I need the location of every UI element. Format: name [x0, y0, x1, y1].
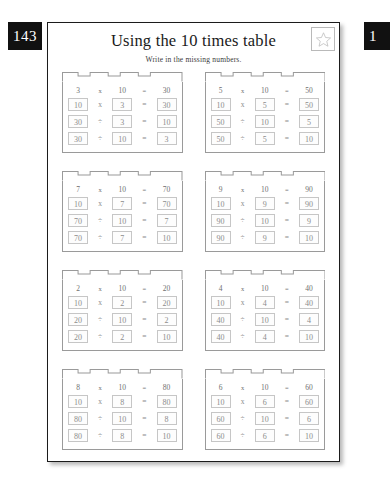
equation-row: 50÷10=5: [211, 113, 320, 130]
answer-box-operand-1[interactable]: 50: [211, 132, 231, 145]
answer-box-operand-1[interactable]: 20: [68, 330, 88, 343]
answer-box-result[interactable]: 20: [157, 296, 177, 309]
page-number-badge-left: 143: [8, 22, 42, 50]
equation-row: 70÷7=10: [68, 229, 177, 246]
equation-example-row: 4x10=40: [211, 282, 320, 294]
answer-box-operand-2[interactable]: 10: [255, 115, 275, 128]
answer-box-operand-1[interactable]: 10: [211, 98, 231, 111]
answer-box-operand-1[interactable]: 80: [68, 412, 88, 425]
equals-symbol: =: [139, 397, 150, 406]
answer-box-operand-1[interactable]: 40: [211, 330, 231, 343]
answer-box-result[interactable]: 40: [299, 296, 319, 309]
answer-box-operand-2[interactable]: 4: [255, 330, 275, 343]
answer-box-result[interactable]: 50: [299, 98, 319, 111]
answer-box-result[interactable]: 5: [299, 115, 319, 128]
equals-symbol: =: [139, 233, 150, 242]
answer-box-operand-2[interactable]: 9: [255, 197, 275, 210]
answer-box-operand-2[interactable]: 6: [255, 395, 275, 408]
equals-symbol: =: [139, 285, 150, 292]
answer-box-result[interactable]: 10: [157, 115, 177, 128]
answer-box-operand-1[interactable]: 60: [211, 412, 231, 425]
answer-box-result[interactable]: 7: [157, 214, 177, 227]
star-sticker-box[interactable]: [311, 27, 335, 51]
answer-box-operand-2[interactable]: 5: [255, 98, 275, 111]
answer-box-result[interactable]: 3: [157, 132, 177, 145]
equals-symbol: =: [139, 431, 150, 440]
exercise-block-body: 7x10=7010x7=7070÷10=770÷7=10: [62, 181, 183, 252]
answer-box-operand-1[interactable]: 60: [211, 429, 231, 442]
answer-box-operand-2[interactable]: 2: [112, 330, 132, 343]
answer-box-operand-2[interactable]: 10: [255, 412, 275, 425]
exercise-block: 5x10=5010x5=5050÷10=550÷5=10: [205, 71, 326, 153]
answer-box-operand-1[interactable]: 20: [68, 313, 88, 326]
answer-box-operand-1[interactable]: 80: [68, 429, 88, 442]
answer-box-operand-1[interactable]: 90: [211, 231, 231, 244]
answer-box-operand-1[interactable]: 10: [211, 197, 231, 210]
answer-box-operand-2[interactable]: 10: [112, 313, 132, 326]
answer-box-operand-2[interactable]: 8: [112, 429, 132, 442]
exercise-block: 6x10=6010x6=6060÷10=660÷6=10: [205, 368, 326, 450]
equals-symbol: =: [139, 117, 150, 126]
operator-symbol: ÷: [95, 216, 106, 225]
answer-box-result[interactable]: 6: [299, 412, 319, 425]
answer-box-result[interactable]: 90: [299, 197, 319, 210]
answer-box-operand-2[interactable]: 7: [112, 231, 132, 244]
answer-box-operand-1[interactable]: 50: [211, 115, 231, 128]
answer-box-operand-1[interactable]: 40: [211, 313, 231, 326]
answer-box-operand-1[interactable]: 10: [211, 296, 231, 309]
answer-box-result[interactable]: 9: [299, 214, 319, 227]
answer-box-operand-2[interactable]: 5: [255, 132, 275, 145]
operator-symbol: x: [95, 100, 106, 109]
answer-box-operand-1[interactable]: 10: [68, 98, 88, 111]
castle-battlement-top: [205, 368, 326, 379]
equals-symbol: =: [281, 298, 292, 307]
answer-box-result[interactable]: 60: [299, 395, 319, 408]
answer-box-result[interactable]: 30: [157, 98, 177, 111]
answer-box-operand-1[interactable]: 10: [68, 395, 88, 408]
answer-box-operand-2[interactable]: 7: [112, 197, 132, 210]
answer-box-operand-2[interactable]: 4: [255, 296, 275, 309]
operator-symbol: x: [237, 285, 248, 292]
answer-box-operand-2[interactable]: 2: [112, 296, 132, 309]
answer-box-result[interactable]: 10: [299, 330, 319, 343]
equals-symbol: =: [281, 332, 292, 341]
answer-box-operand-1[interactable]: 10: [211, 395, 231, 408]
answer-box-result[interactable]: 4: [299, 313, 319, 326]
equals-symbol: =: [139, 100, 150, 109]
answer-box-operand-2[interactable]: 10: [112, 132, 132, 145]
answer-box-result[interactable]: 10: [157, 330, 177, 343]
answer-box-operand-2[interactable]: 10: [255, 313, 275, 326]
operand-2: 10: [112, 284, 132, 293]
answer-box-operand-1[interactable]: 10: [68, 296, 88, 309]
answer-box-operand-2[interactable]: 8: [112, 395, 132, 408]
answer-box-result[interactable]: 10: [299, 231, 319, 244]
answer-box-result[interactable]: 70: [157, 197, 177, 210]
answer-box-operand-2[interactable]: 3: [112, 98, 132, 111]
answer-box-result[interactable]: 8: [157, 412, 177, 425]
answer-box-operand-1[interactable]: 30: [68, 115, 88, 128]
equals-symbol: =: [139, 216, 150, 225]
answer-box-result[interactable]: 2: [157, 313, 177, 326]
answer-box-operand-1[interactable]: 10: [68, 197, 88, 210]
operand-1: 3: [68, 86, 88, 95]
answer-box-result[interactable]: 10: [299, 132, 319, 145]
answer-box-result[interactable]: 80: [157, 395, 177, 408]
answer-box-operand-2[interactable]: 10: [112, 412, 132, 425]
answer-box-operand-1[interactable]: 70: [68, 231, 88, 244]
answer-box-operand-2[interactable]: 10: [112, 214, 132, 227]
answer-box-operand-1[interactable]: 90: [211, 214, 231, 227]
equation-example-row: 9x10=90: [211, 183, 320, 195]
answer-box-operand-2[interactable]: 3: [112, 115, 132, 128]
answer-box-operand-2[interactable]: 10: [255, 214, 275, 227]
answer-box-result[interactable]: 10: [157, 231, 177, 244]
exercise-block: 7x10=7010x7=7070÷10=770÷7=10: [62, 170, 183, 252]
equation-row: 10x3=30: [68, 96, 177, 113]
castle-battlement-top: [205, 170, 326, 181]
answer-box-operand-2[interactable]: 6: [255, 429, 275, 442]
answer-box-result[interactable]: 10: [299, 429, 319, 442]
answer-box-operand-1[interactable]: 70: [68, 214, 88, 227]
answer-box-result[interactable]: 10: [157, 429, 177, 442]
exercise-block-body: 4x10=4010x4=4040÷10=440÷4=10: [205, 280, 326, 351]
answer-box-operand-2[interactable]: 9: [255, 231, 275, 244]
answer-box-operand-1[interactable]: 30: [68, 132, 88, 145]
